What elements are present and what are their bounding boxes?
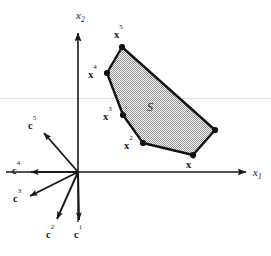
vertex-marker-x2 (140, 140, 146, 146)
cost-vector-label-c2-sup: 2 (51, 223, 55, 231)
figure-canvas (0, 0, 271, 256)
vertex-label-x5: x5 (114, 28, 123, 40)
vertex-label-x4-sup: 4 (93, 63, 97, 71)
cost-vector-c5-arrow (44, 133, 78, 172)
x2-axis-label-sub: 2 (81, 15, 85, 24)
cost-vector-label-c1: c1 (74, 228, 82, 240)
x1-axis-label-sub: 1 (258, 172, 262, 181)
cost-vector-c3-arrow (30, 172, 78, 196)
cost-vector-label-c2: c2 (46, 228, 54, 240)
cost-vector-label-c4-base: c (12, 165, 17, 176)
cost-vector-label-c1-sup: 1 (79, 223, 83, 231)
x1-axis-label: x1 (253, 167, 262, 181)
feasible-region-label: S (147, 101, 153, 113)
vertex-label-x3: x3 (103, 110, 112, 122)
vertex-label-x2: x2 (124, 139, 133, 151)
vertex-label-x2-sup: 2 (129, 134, 133, 142)
vertex-label-x1-sup: 1 (191, 153, 195, 161)
cost-vector-label-c4-sup: 4 (17, 159, 21, 167)
vertex-label-x4: x4 (88, 68, 97, 80)
cost-vector-label-c1-base: c (74, 229, 79, 240)
cost-vector-c2-arrow (57, 172, 78, 219)
vertex-marker-x3 (120, 112, 126, 118)
cost-vector-label-c3-base: c (13, 193, 18, 204)
vertex-label-x5-sup: 5 (119, 23, 123, 31)
vertex-label-x1: x1 (186, 158, 195, 170)
cost-vector-label-c2-base: c (46, 229, 51, 240)
cost-vector-label-c5: c5 (28, 119, 36, 131)
vertex-marker-x4 (104, 70, 110, 76)
cost-vector-c1-arrow (78, 172, 79, 220)
cost-vector-label-c5-base: c (28, 120, 33, 131)
feasible-region-label-text: S (147, 100, 153, 114)
x2-axis-label: x2 (76, 10, 85, 24)
cost-vector-label-c5-sup: 5 (33, 114, 37, 122)
cost-vector-label-c3-sup: 3 (18, 187, 22, 195)
vertex-marker-x5 (119, 44, 125, 50)
cost-vector-label-c3: c3 (13, 192, 21, 204)
cost-vector-label-c4: c4 (12, 164, 20, 176)
vertex-marker-right (212, 127, 218, 133)
vertex-label-x3-sup: 3 (108, 105, 112, 113)
linear-programming-figure: x2 x1 S x1 x2 x3 x4 x5 c1 c2 c3 c4 c5 (0, 0, 271, 256)
